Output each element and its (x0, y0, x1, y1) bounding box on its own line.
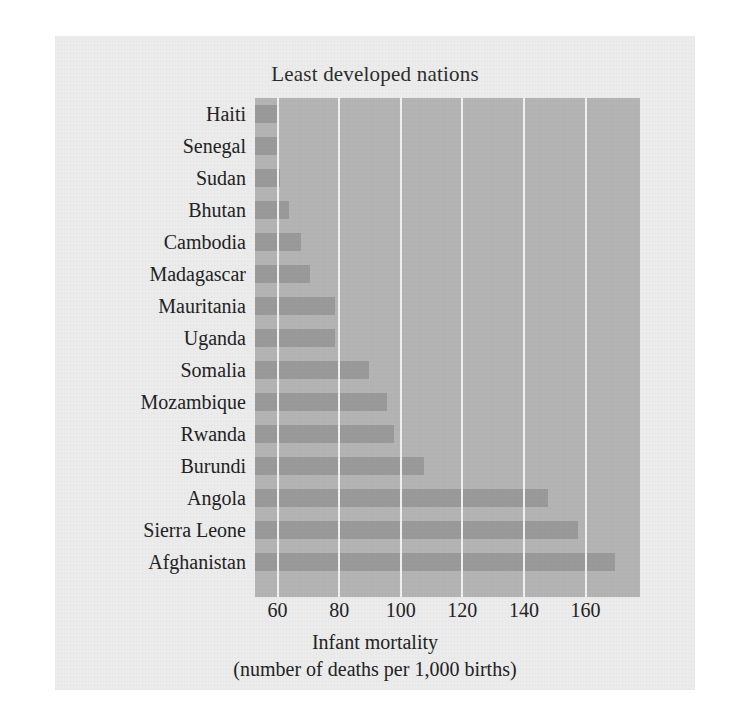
chart-title: Least developed nations (55, 62, 695, 87)
bar (255, 361, 369, 379)
figure-panel: Least developed nations HaitiSenegalSuda… (55, 36, 695, 690)
plot-area (255, 98, 640, 578)
value-axis-title-line1: Infant mortality (312, 631, 438, 653)
category-label: Somalia (75, 354, 255, 386)
category-label: Cambodia (75, 226, 255, 258)
category-label: Madagascar (75, 258, 255, 290)
category-label: Burundi (75, 450, 255, 482)
category-label: Sierra Leone (75, 514, 255, 546)
bar-row (255, 386, 640, 418)
bar-row (255, 98, 640, 130)
value-axis-title-line2: (number of deaths per 1,000 births) (55, 656, 695, 683)
value-axis-tick-labels: 6080100120140160 (255, 599, 640, 627)
bar (255, 297, 335, 315)
bar-row (255, 162, 640, 194)
category-axis-labels: HaitiSenegalSudanBhutanCambodiaMadagasca… (75, 98, 255, 578)
bar-row (255, 514, 640, 546)
axis-tick (461, 578, 463, 597)
bar (255, 169, 280, 187)
bar-row (255, 130, 640, 162)
axis-tick (277, 578, 279, 597)
axis-tick (585, 578, 587, 597)
bar-row (255, 482, 640, 514)
bar (255, 521, 578, 539)
axis-tick-label: 160 (571, 599, 601, 622)
bar-row (255, 258, 640, 290)
bar (255, 265, 310, 283)
bar-row (255, 418, 640, 450)
value-axis-title: Infant mortality (number of deaths per 1… (55, 629, 695, 683)
bar-row (255, 450, 640, 482)
category-label: Bhutan (75, 194, 255, 226)
category-label: Mauritania (75, 290, 255, 322)
axis-tick (400, 578, 402, 597)
axis-tick-label: 120 (447, 599, 477, 622)
axis-tick-label: 60 (268, 599, 288, 622)
bar (255, 393, 387, 411)
value-axis-band (255, 578, 640, 597)
category-label: Mozambique (75, 386, 255, 418)
axis-tick (523, 578, 525, 597)
bar (255, 553, 615, 571)
bar-series (255, 98, 640, 578)
bar-row (255, 546, 640, 578)
category-label: Senegal (75, 130, 255, 162)
axis-tick (338, 578, 340, 597)
axis-tick-label: 140 (509, 599, 539, 622)
bar (255, 137, 277, 155)
bar-row (255, 322, 640, 354)
category-label: Angola (75, 482, 255, 514)
bar (255, 329, 335, 347)
bar (255, 201, 289, 219)
axis-tick-label: 80 (329, 599, 349, 622)
axis-tick-label: 100 (386, 599, 416, 622)
bar-row (255, 194, 640, 226)
bar-row (255, 290, 640, 322)
bar (255, 105, 277, 123)
bar-row (255, 226, 640, 258)
category-label: Uganda (75, 322, 255, 354)
bar-row (255, 354, 640, 386)
bar (255, 425, 394, 443)
category-label: Rwanda (75, 418, 255, 450)
bar (255, 233, 301, 251)
category-label: Haiti (75, 98, 255, 130)
category-label: Sudan (75, 162, 255, 194)
bar (255, 489, 548, 507)
category-label: Afghanistan (75, 546, 255, 578)
bar (255, 457, 424, 475)
